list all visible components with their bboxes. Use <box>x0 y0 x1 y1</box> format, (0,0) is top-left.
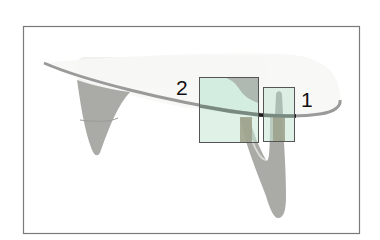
table-figure: 2 1 <box>0 0 380 240</box>
table-illustration <box>0 0 380 240</box>
annotation-label-2: 2 <box>176 77 188 98</box>
annotation-label-1: 1 <box>301 89 313 110</box>
highlight-box-1 <box>264 88 295 142</box>
